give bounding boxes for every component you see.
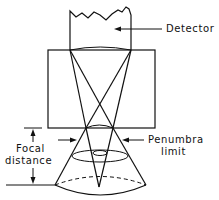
- collimator-rays: [70, 50, 131, 128]
- detector-label: Detector: [166, 23, 215, 34]
- collimator-block: [48, 50, 155, 128]
- focal-label-line1: Focal: [16, 143, 45, 154]
- penumbra-label-line1: Penumbra: [148, 134, 204, 145]
- focused-collimator-diagram: Detector Penumbra limit Focal distance: [0, 0, 219, 200]
- penumbra-limit-arrows: [58, 138, 144, 143]
- focal-label-line2: distance: [5, 155, 52, 166]
- focusing-cone: [55, 128, 146, 195]
- detector-pointer: [114, 27, 162, 32]
- penumbra-label-line2: limit: [161, 146, 186, 157]
